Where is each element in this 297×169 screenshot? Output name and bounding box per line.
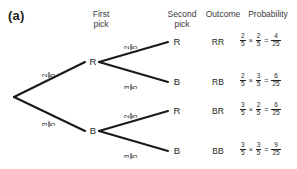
outcome-br: BR	[205, 106, 231, 116]
outcome-bb: BB	[205, 146, 231, 156]
node-second-pick-b-2: B	[170, 146, 184, 156]
prob-rb-equals-operator: =	[263, 77, 269, 84]
prob-rr-result-denominator: 25	[271, 41, 280, 48]
branch-label-first-r-denominator: 5	[49, 73, 56, 79]
branch-label-br-denominator: 5	[131, 114, 138, 120]
prob-rr-p2-denominator: 5	[256, 41, 262, 48]
node-second-pick-r-1: R	[170, 37, 184, 47]
prob-bb-p2-denominator: 5	[256, 150, 262, 157]
tree-diagram-figure: (a) First pick Second pick Outcome Proba…	[0, 0, 297, 169]
prob-bb-times-operator: ×	[248, 146, 254, 153]
branch-root-to-r	[14, 62, 85, 97]
prob-bb-result-denominator: 25	[271, 150, 280, 157]
prob-rb-times-operator: ×	[248, 77, 254, 84]
branch-label-br: 2 5	[124, 114, 139, 120]
probability-row-rr: 2 5 × 2 5 = 4 25	[240, 33, 297, 48]
branch-label-first-r: 2 5	[42, 73, 57, 79]
prob-rr-equals-operator: =	[263, 37, 269, 44]
prob-br-p1-denominator: 5	[240, 110, 246, 117]
node-first-pick-b: B	[86, 126, 100, 136]
branch-label-first-b-denominator: 5	[49, 122, 56, 128]
prob-rb-result-denominator: 25	[271, 81, 280, 88]
branch-r-to-b	[99, 62, 168, 82]
prob-rb-p2-denominator: 5	[256, 81, 262, 88]
prob-rb-p1-denominator: 5	[240, 81, 246, 88]
prob-rr-p1-denominator: 5	[240, 41, 246, 48]
prob-br-p2-denominator: 5	[256, 110, 262, 117]
branch-label-rb-denominator: 5	[131, 85, 138, 91]
branch-label-rr: 2 5	[124, 45, 139, 51]
probability-row-bb: 3 5 × 3 5 = 9 25	[240, 142, 297, 157]
prob-br-equals-operator: =	[263, 106, 269, 113]
prob-br-result-denominator: 25	[271, 110, 280, 117]
prob-bb-equals-operator: =	[263, 146, 269, 153]
probability-row-br: 3 5 × 2 5 = 6 25	[240, 102, 297, 117]
node-second-pick-r-2: R	[170, 106, 184, 116]
branch-label-bb: 3 5	[124, 154, 139, 160]
branch-b-to-b	[99, 131, 168, 151]
outcome-rb: RB	[205, 77, 231, 87]
node-second-pick-b-1: B	[170, 77, 184, 87]
branch-label-bb-denominator: 5	[131, 154, 138, 160]
prob-rr-times-operator: ×	[248, 37, 254, 44]
branch-label-first-b: 3 5	[42, 122, 57, 128]
probability-row-rb: 2 5 × 3 5 = 6 25	[240, 73, 297, 88]
node-first-pick-r: R	[86, 57, 100, 67]
branch-label-rr-denominator: 5	[131, 45, 138, 51]
prob-br-times-operator: ×	[248, 106, 254, 113]
outcome-rr: RR	[205, 37, 231, 47]
branch-label-rb: 3 5	[124, 85, 139, 91]
prob-bb-p1-denominator: 5	[240, 150, 246, 157]
